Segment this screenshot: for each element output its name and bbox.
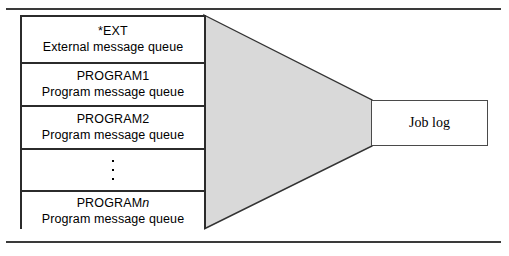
ellipsis-dot [112,160,114,162]
queue-name-index: n [142,196,149,210]
queue-row[interactable]: *EXT External message queue [22,17,204,64]
queue-description: Program message queue [42,127,184,143]
funnel-polygon [204,15,372,229]
queue-row-ellipsis [22,150,204,192]
queue-name: PROGRAMn [77,196,150,211]
vertical-ellipsis-icon [112,150,114,190]
queue-description: Program message queue [42,211,184,227]
queue-name: PROGRAM2 [77,112,150,127]
message-queue-stack: *EXT External message queue PROGRAM1 Pro… [20,15,206,229]
figure-message-queue-job-log: *EXT External message queue PROGRAM1 Pro… [0,0,509,256]
job-log-label: Job log [409,115,450,131]
queue-row[interactable]: PROGRAMn Program message queue [22,192,204,231]
ellipsis-dot [112,169,114,171]
queue-description: Program message queue [42,84,184,100]
ellipsis-dot [112,178,114,180]
queue-row[interactable]: PROGRAM2 Program message queue [22,107,204,150]
queue-name: *EXT [98,24,128,39]
figure-bottom-rule [6,241,501,243]
queue-name: PROGRAM1 [77,69,150,84]
queue-name-base: PROGRAM [77,196,143,210]
queue-description: External message queue [43,39,183,55]
job-log-box[interactable]: Job log [371,100,488,146]
queue-row[interactable]: PROGRAM1 Program message queue [22,64,204,107]
